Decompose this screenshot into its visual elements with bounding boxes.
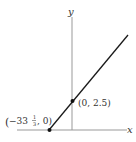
y-intercept-label: (0, 2.5) (78, 98, 111, 108)
x-intercept-label-whole: −33 (9, 116, 28, 126)
x-intercept-label-rest: , 0) (37, 116, 52, 126)
x-intercept-label-den: 3 (33, 121, 36, 127)
x-axis-label: x (127, 124, 133, 135)
function-line (49, 35, 128, 130)
y-axis-label: y (67, 6, 74, 17)
x-intercept-point (48, 128, 52, 132)
x-intercept-label-num: 1 (33, 114, 36, 120)
graph: y x (0, 2.5) ( −33 1 3 , 0) (0, 0, 136, 142)
y-intercept-point (71, 99, 75, 103)
